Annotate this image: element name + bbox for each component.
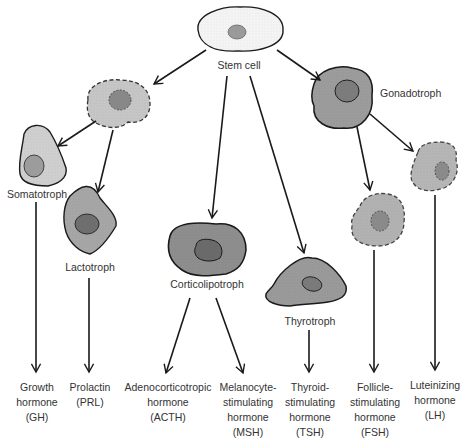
somatotroph-cell [19, 125, 66, 186]
corticolipotroph-cell [169, 223, 247, 276]
arrow-precursor-to-somatotroph [58, 121, 96, 146]
gonadotroph-label: Gonadotroph [380, 86, 450, 100]
thyrotroph-label: Thyrotroph [280, 314, 340, 328]
fsh-secreting-gonadotroph-cell [352, 194, 405, 247]
arrow-gonadotroph-to-lh-cell [370, 114, 413, 151]
somatomammotroph-precursor-cell [87, 80, 150, 128]
lactotroph-cell [64, 186, 116, 254]
stem-cell [198, 7, 283, 51]
lh-secreting-gonadotroph-cell [411, 142, 457, 191]
hormone-acth-label: Adenocorticotropic hormone (ACTH) [118, 380, 218, 425]
stem-cell-nucleus [228, 25, 246, 39]
arrow-stem-to-precursor [154, 50, 206, 84]
hormone-prl-label: Prolactin (PRL) [64, 380, 116, 410]
arrow-corticolipotroph-to-msh [216, 298, 243, 373]
hormone-gh-label: Growth hormone (GH) [11, 380, 63, 425]
hormone-fsh-label: Follicle- stimulating hormone (FSH) [346, 380, 404, 440]
somatotroph-label: Somatotroph [4, 187, 70, 201]
arrow-stem-to-corticolipotroph [212, 76, 227, 218]
stem-cell-label: Stem cell [214, 58, 264, 72]
arrow-precursor-to-lactotroph [98, 130, 113, 192]
corticolipotroph-label: Corticolipotroph [162, 277, 252, 291]
arrow-gonadotroph-to-fsh-cell [357, 127, 370, 190]
arrow-corticolipotroph-to-acth [166, 298, 190, 373]
gonadotroph-cell [312, 67, 373, 129]
arrow-stem-to-gonadotroph [277, 50, 320, 80]
hormone-msh-label: Melanocyte- stimulating hormone (MSH) [212, 380, 284, 440]
thyrotroph-cell [266, 257, 346, 306]
lactotroph-label: Lactotroph [60, 260, 120, 274]
hormone-tsh-label: Thyroid- stimulating hormone (TSH) [282, 380, 338, 440]
arrow-stem-to-thyrotroph [250, 76, 304, 253]
hormone-lh-label: Luteinizing hormone (LH) [404, 378, 466, 423]
